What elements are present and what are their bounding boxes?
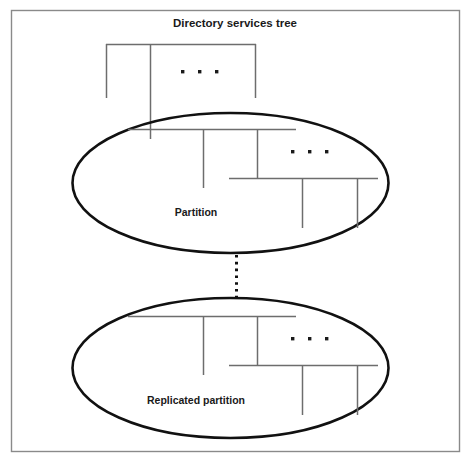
partition-label: Partition [175,206,218,218]
ellipsis-dot [308,337,311,340]
replicated-partition-label: Replicated partition [147,394,245,406]
ellipsis-dot [291,337,294,340]
ellipsis-dot [291,150,294,153]
ellipsis-dot [308,150,311,153]
directory-services-tree-diagram: Directory services tree [0,0,471,470]
ellipsis-dot [181,70,184,73]
figure-root: Directory services tree [0,0,471,470]
ellipsis-dot [325,150,328,153]
ellipsis-dot [215,70,218,73]
ellipsis-dot [325,337,328,340]
ellipsis-dot [198,70,201,73]
page-title: Directory services tree [173,17,297,29]
